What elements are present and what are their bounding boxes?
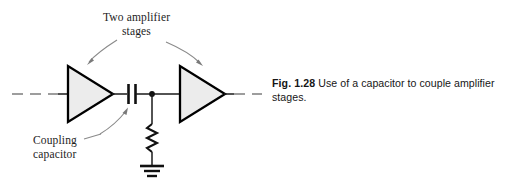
leader-arrow-capacitor — [100, 111, 126, 134]
annotation-coupling-capacitor: Coupling capacitor — [33, 134, 123, 161]
leader-arrow-amp2 — [166, 42, 200, 63]
figure-caption: Fig. 1.28 Use of a capacitor to couple a… — [272, 76, 500, 104]
annotation-two-amplifier-stages: Two amplifier stages — [79, 11, 194, 38]
leader-arrowhead-amp1 — [87, 58, 94, 65]
leader-arrow-amp1 — [89, 40, 117, 62]
amplifier-stage-2 — [180, 66, 225, 122]
figure-container: Two amplifier stages Coupling capacitor … — [0, 0, 511, 182]
figure-number: Fig. 1.28 — [272, 77, 315, 89]
load-resistor — [147, 124, 157, 152]
amplifier-stage-1 — [68, 66, 113, 122]
